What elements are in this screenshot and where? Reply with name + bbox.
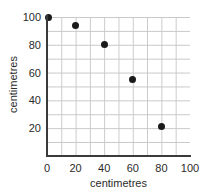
grid-lines (47, 17, 190, 156)
y-axis-line (46, 15, 48, 157)
x-tick-label: 20 (69, 163, 81, 174)
plot-area (47, 17, 190, 156)
data-point (72, 22, 79, 29)
x-tick-label: 60 (127, 163, 139, 174)
x-tick-label: 40 (98, 163, 110, 174)
y-tick-label: 100 (8, 12, 41, 23)
x-tick-label: 80 (155, 163, 167, 174)
data-point (101, 41, 108, 48)
x-axis-line (46, 155, 191, 157)
scatter-chart: 20406080100 020406080100 centimetres cen… (0, 0, 204, 195)
x-tick-label: 100 (181, 163, 199, 174)
x-tick-label: 0 (44, 163, 50, 174)
x-axis-title: centimetres (47, 178, 190, 189)
y-axis-title: centimetres (8, 35, 19, 135)
